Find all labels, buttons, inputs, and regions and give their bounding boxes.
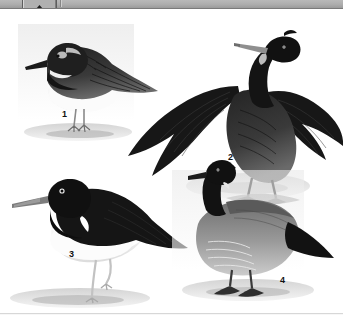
figure-4-number: 4 — [280, 275, 285, 285]
up-arrow-icon — [36, 5, 43, 9]
figure-2-number: 2 — [228, 152, 233, 162]
toolbar-separator — [60, 0, 62, 7]
bird-plate-image: 1 — [0, 10, 343, 316]
plate-artwork: 1 — [0, 10, 343, 316]
application-toolbar — [0, 0, 343, 9]
plate-bottom-border — [0, 313, 343, 314]
figure-1-number: 1 — [62, 109, 67, 119]
up-one-level-button[interactable] — [22, 0, 57, 9]
figure-3-number: 3 — [69, 249, 74, 259]
